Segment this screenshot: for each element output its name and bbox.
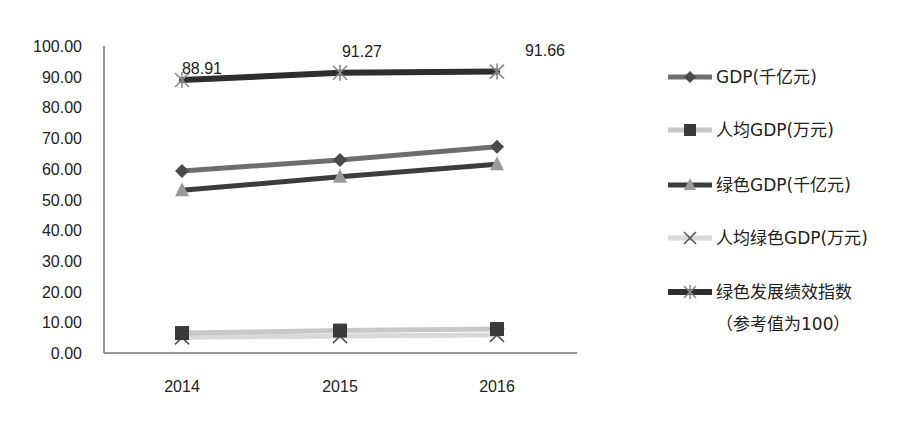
data-label: 88.91	[182, 60, 222, 77]
y-tick-label: 10.00	[42, 314, 82, 331]
y-tick-label: 0.00	[51, 345, 82, 362]
y-tick-label: 60.00	[42, 161, 82, 178]
diamond-marker-icon	[175, 164, 189, 178]
line-chart: 0.0010.0020.0030.0040.0050.0060.0070.008…	[0, 0, 909, 425]
legend-item: 人均绿色GDP(万元)	[668, 228, 868, 248]
x-tick-label: 2016	[479, 378, 515, 395]
square-marker-icon	[175, 326, 189, 340]
legend-label: GDP(千亿元)	[716, 67, 817, 87]
legend-item: 绿色GDP(千亿元)	[668, 175, 851, 195]
square-marker-icon	[684, 124, 696, 136]
legend: GDP(千亿元)人均GDP(万元)绿色GDP(千亿元)人均绿色GDP(万元)绿色…	[668, 67, 868, 334]
legend-item: GDP(千亿元)	[668, 67, 817, 87]
y-tick-label: 50.00	[42, 192, 82, 209]
data-label: 91.66	[525, 42, 565, 59]
legend-label: 人均GDP(万元)	[716, 120, 834, 140]
y-tick-label: 100.00	[33, 38, 82, 55]
y-tick-label: 90.00	[42, 69, 82, 86]
diamond-marker-icon	[333, 153, 347, 167]
square-marker-icon	[333, 324, 347, 338]
legend-label: 绿色GDP(千亿元)	[716, 175, 851, 195]
y-tick-label: 30.00	[42, 253, 82, 270]
y-tick-label: 20.00	[42, 284, 82, 301]
square-marker-icon	[490, 322, 504, 336]
legend-label: 绿色发展绩效指数	[716, 282, 852, 302]
y-axis: 0.0010.0020.0030.0040.0050.0060.0070.008…	[33, 38, 104, 362]
y-tick-label: 70.00	[42, 130, 82, 147]
x-axis: 201420152016	[104, 353, 577, 395]
series-layer	[175, 64, 504, 345]
diamond-marker-icon	[490, 140, 504, 154]
y-tick-label: 40.00	[42, 222, 82, 239]
diamond-marker-icon	[684, 71, 696, 83]
legend-label: 人均绿色GDP(万元)	[716, 228, 868, 248]
data-label: 91.27	[342, 43, 382, 60]
legend-label-line2: （参考值为100）	[716, 314, 850, 334]
legend-item: 人均GDP(万元)	[668, 120, 834, 140]
legend-item: 绿色发展绩效指数（参考值为100）	[668, 282, 852, 334]
x-tick-label: 2015	[322, 378, 358, 395]
y-tick-label: 80.00	[42, 99, 82, 116]
x-tick-label: 2014	[164, 378, 200, 395]
